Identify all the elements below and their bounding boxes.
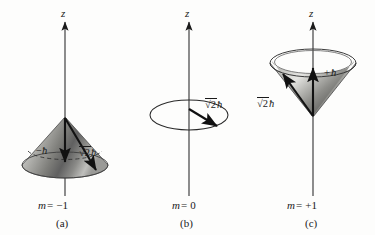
panel-a-m-equals: =: [47, 199, 53, 211]
panel-a-z-projection-symbol: ħ: [42, 145, 47, 156]
panel-b-total-momentum-symbol: ħ: [217, 99, 222, 110]
panel-a-sqrt-group: √2ħ: [80, 148, 96, 159]
panel-c-z-projection-symbol: ħ: [331, 67, 336, 78]
panel-b-m-value: 0: [190, 199, 196, 211]
panel-c-caption: (c): [305, 218, 317, 229]
panel-a-axis-label: z: [61, 8, 65, 19]
panel-b-sqrt-radicand: √2: [205, 98, 217, 110]
panel-c-quantum-number-label: m=+1: [287, 200, 317, 211]
panel-b-total-momentum-label: √2ħ: [206, 100, 222, 111]
panel-b-sqrt-group: √2ħ: [206, 100, 222, 111]
panel-c-sqrt-group: √2ħ: [258, 99, 274, 110]
panel-a-graphics: [22, 22, 108, 196]
panel-a-sqrt-radicand: √2: [79, 146, 91, 158]
angular-momentum-vector-model-figure: z −ħ √2ħ m=−1 (a) z √2ħ m=0 (b) z +ħ √2ħ…: [0, 0, 375, 235]
panel-c-total-momentum-label: √2ħ: [258, 99, 274, 110]
panel-b-total-momentum-vector: [189, 109, 217, 126]
panel-c-axis-label: z: [309, 8, 313, 19]
panel-b-caption: (b): [180, 218, 193, 229]
panel-a-quantum-number-label: m=−1: [38, 200, 68, 211]
panel-c-z-projection-sign: +: [324, 67, 330, 78]
panel-b-m-symbol: m: [172, 199, 180, 211]
panel-a-z-projection-label: −ħ: [36, 146, 47, 157]
panel-a-total-momentum-label: √2ħ: [80, 148, 96, 159]
panel-c-z-projection-label: +ħ: [324, 68, 336, 79]
panel-c-m-value: +1: [305, 199, 317, 211]
panel-a-m-symbol: m: [38, 199, 46, 211]
panel-a-caption: (a): [56, 218, 68, 229]
panel-b-quantum-number-label: m=0: [172, 200, 196, 211]
panel-c-m-symbol: m: [287, 199, 295, 211]
panel-c-sqrt-radicand: √2: [257, 97, 269, 109]
panel-a-total-momentum-symbol: ħ: [91, 147, 96, 158]
panel-c-graphics: [270, 22, 356, 196]
panel-c-total-momentum-symbol: ħ: [269, 98, 274, 109]
panel-b-m-equals: =: [181, 199, 187, 211]
panel-a-m-value: −1: [56, 199, 68, 211]
panel-c-m-equals: =: [296, 199, 302, 211]
panel-b-axis-label: z: [185, 8, 189, 19]
